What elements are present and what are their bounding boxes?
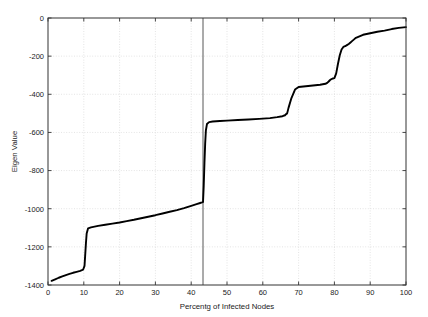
y-tick-label: -200 — [29, 52, 44, 61]
x-tick-label: 30 — [151, 288, 159, 297]
y-tick-label: 0 — [40, 14, 44, 23]
y-tick-label: -600 — [29, 128, 44, 137]
chart-background — [0, 0, 428, 317]
x-tick-label: 100 — [400, 288, 413, 297]
chart-figure: 01020304050607080901000-200-400-600-800-… — [0, 0, 428, 317]
y-axis-title: Eigen Value — [10, 131, 19, 172]
x-tick-label: 70 — [294, 288, 302, 297]
x-tick-label: 80 — [330, 288, 338, 297]
y-tick-label: -1200 — [25, 243, 44, 252]
y-tick-label: -1000 — [25, 205, 44, 214]
x-tick-label: 20 — [115, 288, 123, 297]
y-tick-label: -400 — [29, 90, 44, 99]
x-tick-label: 40 — [187, 288, 195, 297]
y-tick-label: -800 — [29, 166, 44, 175]
y-tick-label: -1400 — [25, 281, 44, 290]
x-axis-title: Percentg of Infected Nodes — [180, 302, 275, 311]
x-tick-label: 10 — [80, 288, 88, 297]
eigen-value-line-chart: 01020304050607080901000-200-400-600-800-… — [0, 0, 428, 317]
x-tick-label: 60 — [259, 288, 267, 297]
x-tick-label: 50 — [223, 288, 231, 297]
x-tick-label: 0 — [46, 288, 50, 297]
x-tick-label: 90 — [366, 288, 374, 297]
